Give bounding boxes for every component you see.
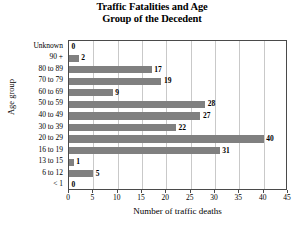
bar-row: 27 [69,110,286,122]
bar-value-label: 40 [266,135,274,143]
y-axis-tick-label: Unknown [33,42,63,50]
bar-value-label: 1 [76,158,80,166]
y-axis-tick-labels: Unknown90 +80 to 8970 to 7960 to 6950 to… [0,40,66,190]
y-axis-tick-label: 80 to 89 [38,65,63,73]
bar [69,89,113,96]
x-axis-tick-label: 0 [66,193,70,202]
x-axis-tick-label: 35 [235,193,243,202]
bar-row: 22 [69,122,286,134]
bar-row: 5 [69,168,286,180]
bar-value-label: 22 [179,124,187,132]
y-axis-tick-label: 60 to 69 [38,88,63,96]
bar [69,147,220,154]
bar-value-label: 0 [72,181,76,189]
y-axis-tick-label: 90 + [49,53,63,61]
x-axis-tick-label: 30 [210,193,218,202]
bar-row: 17 [69,64,286,76]
x-axis-tick-label: 5 [90,193,94,202]
plot-area: 02171992827224031150 [68,40,287,190]
chart-title-line-2: Group of the Decedent [0,13,304,25]
bar [69,55,79,62]
y-axis-tick-label: 13 to 15 [38,157,63,165]
bar [69,66,152,73]
bar-row: 19 [69,76,286,88]
bar-value-label: 2 [81,54,85,62]
y-axis-tick-label: 30 to 39 [38,123,63,131]
bar-row: 9 [69,87,286,99]
bar [69,170,93,177]
bar [69,112,200,119]
bar-value-label: 31 [222,147,230,155]
x-axis-tick-label: 20 [162,193,170,202]
bar [69,101,205,108]
chart-title-line-1: Traffic Fatalities and Age [0,1,304,13]
bar-row: 28 [69,99,286,111]
bar-value-label: 9 [115,89,119,97]
x-axis-tick-label: 40 [259,193,267,202]
bar-row: 2 [69,53,286,65]
bar-row: 31 [69,145,286,157]
bar-value-label: 17 [154,66,162,74]
x-axis-title: Number of traffic deaths [68,206,287,216]
bar-series: 02171992827224031150 [69,41,286,189]
bar-value-label: 0 [72,43,76,51]
bar [69,135,264,142]
bar [69,124,176,131]
bar-row: 1 [69,156,286,168]
x-axis-tick-label: 25 [186,193,194,202]
y-axis-tick-label: 6 to 12 [42,169,63,177]
bar-row: 40 [69,133,286,145]
x-axis-tick-labels: 051015202530354045 [68,193,287,205]
y-axis-tick-label: < 1 [53,180,63,188]
x-axis-tick-label: 15 [137,193,145,202]
bar [69,78,161,85]
y-axis-tick-label: 70 to 79 [38,76,63,84]
y-axis-tick-label: 40 to 49 [38,111,63,119]
bar [69,159,74,166]
chart-container: Traffic Fatalities and Age Group of the … [0,0,304,227]
bar-value-label: 27 [203,112,211,120]
x-axis-tick-label: 45 [283,193,291,202]
bar-value-label: 28 [208,100,216,108]
y-axis-tick-label: 20 to 29 [38,134,63,142]
y-axis-tick-label: 16 to 19 [38,146,63,154]
bar-value-label: 5 [96,170,100,178]
y-axis-tick-label: 50 to 59 [38,99,63,107]
bar-value-label: 19 [164,77,172,85]
bar-row: 0 [69,41,286,53]
chart-title: Traffic Fatalities and Age Group of the … [0,1,304,25]
x-axis-tick-label: 10 [113,193,121,202]
